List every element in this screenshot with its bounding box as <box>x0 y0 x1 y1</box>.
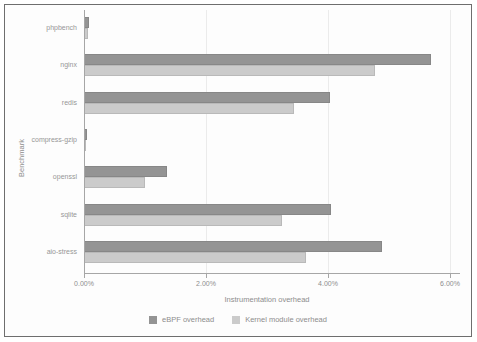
bar-ebpf-overhead <box>85 129 87 140</box>
legend-swatch-kernel-module <box>232 316 240 324</box>
legend-swatch-ebpf <box>149 316 157 324</box>
legend-label: eBPF overhead <box>162 315 214 324</box>
x-tick-label: 0.00% <box>74 280 94 287</box>
bar-kernel-module-overhead <box>85 103 294 114</box>
x-tick-mark <box>206 273 207 278</box>
bar-kernel-module-overhead <box>85 140 86 151</box>
x-tick-mark <box>450 273 451 278</box>
category-label: nginx <box>5 60 77 69</box>
legend-label: Kernel module overhead <box>245 315 327 324</box>
x-axis-line <box>84 273 460 274</box>
x-tick-mark <box>328 273 329 278</box>
bar-ebpf-overhead <box>85 204 331 215</box>
x-tick-label: 6.00% <box>440 280 460 287</box>
plot-area: phpbenchnginxrediscompress-gzipopensslsq… <box>5 5 471 336</box>
legend: eBPF overheadKernel module overhead <box>5 315 471 324</box>
category-label: redis <box>5 98 77 107</box>
gridline <box>328 10 329 273</box>
legend-item: Kernel module overhead <box>232 315 327 324</box>
gridline <box>206 10 207 273</box>
bar-kernel-module-overhead <box>85 65 375 76</box>
x-tick-label: 2.00% <box>196 280 216 287</box>
bar-kernel-module-overhead <box>85 177 145 188</box>
bar-kernel-module-overhead <box>85 215 282 226</box>
x-tick-mark <box>84 273 85 278</box>
category-label: aio-stress <box>5 247 77 256</box>
bar-ebpf-overhead <box>85 166 167 177</box>
y-axis-title: Benchmark <box>17 139 26 177</box>
y-axis-line <box>84 10 85 273</box>
x-tick-label: 4.00% <box>318 280 338 287</box>
x-axis-title: Instrumentation overhead <box>224 295 309 304</box>
category-label: openssl <box>5 172 77 181</box>
bar-ebpf-overhead <box>85 241 382 252</box>
gridline <box>450 10 451 273</box>
category-label: phpbench <box>5 23 77 32</box>
bar-kernel-module-overhead <box>85 252 306 263</box>
chart-frame: phpbenchnginxrediscompress-gzipopensslsq… <box>4 4 472 337</box>
bar-ebpf-overhead <box>85 92 330 103</box>
bar-ebpf-overhead <box>85 17 89 28</box>
bar-kernel-module-overhead <box>85 28 88 39</box>
bar-ebpf-overhead <box>85 54 431 65</box>
chart-image: phpbenchnginxrediscompress-gzipopensslsq… <box>0 0 477 342</box>
category-label: sqlite <box>5 210 77 219</box>
legend-item: eBPF overhead <box>149 315 214 324</box>
category-label: compress-gzip <box>5 135 77 144</box>
